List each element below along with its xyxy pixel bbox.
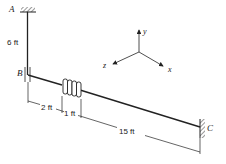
axis-y-label: y <box>142 27 147 36</box>
beam-diagram: A 6 ft B C 2 ft 1 ft 15 ft <box>0 0 226 164</box>
dimension-ab: 6 ft <box>7 38 19 47</box>
label-b: B <box>17 68 23 78</box>
dimension-1ft: 1 ft <box>64 109 76 118</box>
dimension-2ft: 2 ft <box>41 103 53 112</box>
dimension-lines <box>28 82 200 154</box>
coil-disk <box>63 79 81 97</box>
coordinate-axes <box>113 30 163 66</box>
axis-z-label: z <box>102 61 107 70</box>
label-a: A <box>8 4 15 14</box>
fixed-support-a <box>20 7 36 12</box>
fixed-support-c <box>200 119 205 138</box>
dimension-15ft: 15 ft <box>119 127 135 136</box>
shaft-segment-1 <box>28 75 62 85</box>
axis-x-label: x <box>167 65 172 74</box>
label-c: C <box>207 123 214 133</box>
